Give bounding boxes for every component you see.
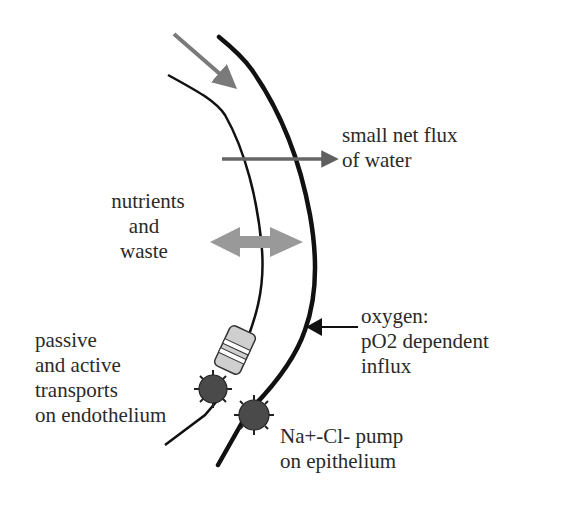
nutrients-label: nutrients and waste [88, 189, 208, 264]
transports-label: passive and active transports on endothe… [35, 328, 166, 428]
pump-line-1: Na+-Cl- pump [280, 424, 403, 449]
endothelium-pump-icon [194, 370, 232, 408]
nutrients-line-1: nutrients [88, 189, 208, 214]
water-flux-line-1: small net flux [342, 123, 457, 148]
nutrients-line-2: and [80, 214, 208, 239]
oxygen-line-1: oxygen: [361, 304, 489, 329]
transports-line-1: passive [35, 328, 166, 353]
transports-line-3: transports [35, 378, 166, 403]
pump-label: Na+-Cl- pump on epithelium [280, 424, 403, 474]
flow-direction-arrow [174, 34, 228, 81]
transports-line-2: and active [35, 353, 166, 378]
epithelium-pump-icon [234, 395, 274, 435]
transports-line-4: on endothelium [35, 403, 166, 428]
oxygen-line-2: pO2 dependent [361, 329, 489, 354]
nutrients-exchange-arrow [210, 227, 303, 257]
pump-line-2: on epithelium [280, 449, 403, 474]
water-flux-label: small net flux of water [342, 123, 457, 173]
oxygen-label: oxygen: pO2 dependent influx [361, 304, 489, 379]
oxygen-line-3: influx [361, 354, 489, 379]
nutrients-line-3: waste [80, 239, 208, 264]
water-flux-line-2: of water [342, 148, 457, 173]
